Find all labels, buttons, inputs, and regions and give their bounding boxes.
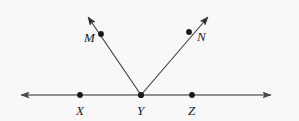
label-y: Y <box>137 104 144 117</box>
label-z: Z <box>188 104 195 117</box>
ray-ym <box>88 17 141 95</box>
point-m <box>98 31 104 37</box>
geometry-canvas <box>0 0 299 121</box>
label-x: X <box>76 104 84 117</box>
point-n <box>186 29 192 35</box>
label-n: N <box>197 30 206 43</box>
point-z <box>189 92 195 98</box>
point-y <box>138 92 144 98</box>
point-x <box>77 92 83 98</box>
label-m: M <box>84 31 95 44</box>
geometry-figure: M N X Y Z <box>0 0 299 121</box>
